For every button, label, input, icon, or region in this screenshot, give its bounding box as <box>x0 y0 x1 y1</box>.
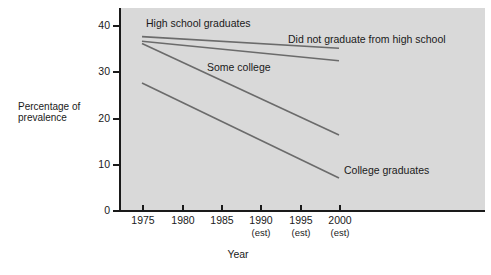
series-label-high-school-graduates: High school graduates <box>146 17 250 29</box>
series-label-did-not-graduate: Did not graduate from high school <box>288 33 446 45</box>
chart-figure: 40 30 20 10 0 1975 1980 1985 1990 (est) … <box>0 0 491 275</box>
line-college-graduates <box>142 83 339 178</box>
series-label-some-college: Some college <box>207 61 271 73</box>
series-label-college-graduates: College graduates <box>344 164 429 176</box>
